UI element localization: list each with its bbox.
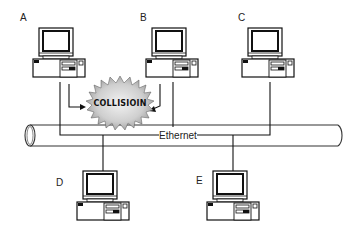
computer-icon (77, 171, 129, 220)
node-label-e: E (196, 175, 203, 186)
node-label-c: C (238, 12, 245, 23)
arrow-head-icon (80, 104, 86, 110)
node-label-b: B (140, 12, 147, 23)
ethernet-collision-diagram: COLLISIOIN Ethernet A B C D E (0, 0, 358, 242)
computer-a (33, 28, 85, 77)
computer-icon (242, 28, 294, 77)
computer-icon (207, 171, 259, 220)
computer-c (242, 28, 294, 77)
computer-e (207, 171, 259, 220)
computer-d (77, 171, 129, 220)
node-label-d: D (56, 177, 63, 188)
collision-burst: COLLISIOIN (86, 76, 154, 130)
collision-label: COLLISIOIN (93, 99, 146, 108)
computer-b (146, 28, 198, 77)
computer-icon (146, 28, 198, 77)
computer-icon (33, 28, 85, 77)
ethernet-label: Ethernet (159, 130, 197, 141)
node-label-a: A (20, 12, 27, 23)
